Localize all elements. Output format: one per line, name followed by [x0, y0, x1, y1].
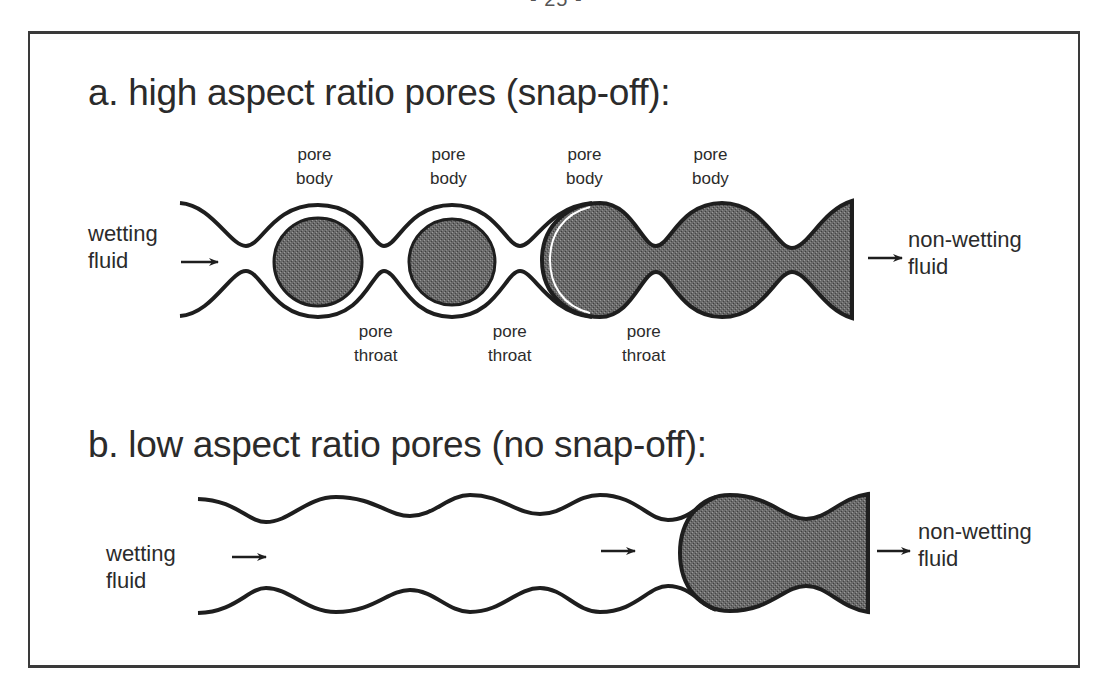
- pore-body-label-2: pore body: [430, 143, 467, 191]
- pore-body-label-1-line2: body: [296, 167, 333, 191]
- pore-throat-label-2: pore throat: [488, 320, 531, 368]
- pore-throat-label-1-line2: throat: [354, 344, 397, 368]
- pore-body-label-2-line2: body: [430, 167, 467, 191]
- section-a-channel: [180, 201, 902, 318]
- pore-body-label-1: pore body: [296, 143, 333, 191]
- outlet-label-line1: non-wetting: [918, 518, 1032, 545]
- outlet-label-line2: fluid: [908, 253, 1022, 280]
- non-wetting-fluid-region-b: [680, 494, 868, 612]
- pore-body-label-3-line1: pore: [566, 143, 603, 167]
- pore-throat-label-1-line1: pore: [354, 320, 397, 344]
- section-b-channel: [198, 494, 910, 613]
- pore-body-label-3: pore body: [566, 143, 603, 191]
- pore-throat-label-3-line2: throat: [622, 344, 665, 368]
- inlet-label-line1: wetting: [88, 220, 158, 247]
- trapped-blob-1: [274, 218, 362, 306]
- pore-body-label-4-line2: body: [692, 167, 729, 191]
- section-a-outlet-label: non-wetting fluid: [908, 226, 1022, 280]
- inlet-label-line2: fluid: [88, 247, 158, 274]
- top-wall-b: [198, 495, 716, 522]
- pore-body-label-4-line1: pore: [692, 143, 729, 167]
- pore-throat-label-3: pore throat: [622, 320, 665, 368]
- bottom-wall-b: [198, 586, 716, 613]
- pore-body-label-4: pore body: [692, 143, 729, 191]
- pore-body-label-1-line1: pore: [296, 143, 333, 167]
- bottom-wall-a: [180, 271, 592, 317]
- outlet-label-line1: non-wetting: [908, 226, 1022, 253]
- section-a-title: a. high aspect ratio pores (snap-off):: [88, 72, 670, 114]
- section-a-inlet-label: wetting fluid: [88, 220, 158, 274]
- pore-throat-label-3-line1: pore: [622, 320, 665, 344]
- non-wetting-fluid-region-a: [542, 201, 852, 318]
- pore-throat-label-1: pore throat: [354, 320, 397, 368]
- pore-body-label-3-line2: body: [566, 167, 603, 191]
- outlet-label-line2: fluid: [918, 545, 1032, 572]
- pore-body-label-2-line1: pore: [430, 143, 467, 167]
- section-b-title: b. low aspect ratio pores (no snap-off):: [88, 424, 707, 466]
- pore-throat-label-2-line2: throat: [488, 344, 531, 368]
- section-b-outlet-label: non-wetting fluid: [918, 518, 1032, 572]
- inlet-label-line1: wetting: [106, 540, 176, 567]
- trapped-blob-2: [409, 219, 495, 305]
- section-b-inlet-label: wetting fluid: [106, 540, 176, 594]
- inlet-label-line2: fluid: [106, 567, 176, 594]
- top-wall-a: [180, 203, 592, 246]
- pore-throat-label-2-line1: pore: [488, 320, 531, 344]
